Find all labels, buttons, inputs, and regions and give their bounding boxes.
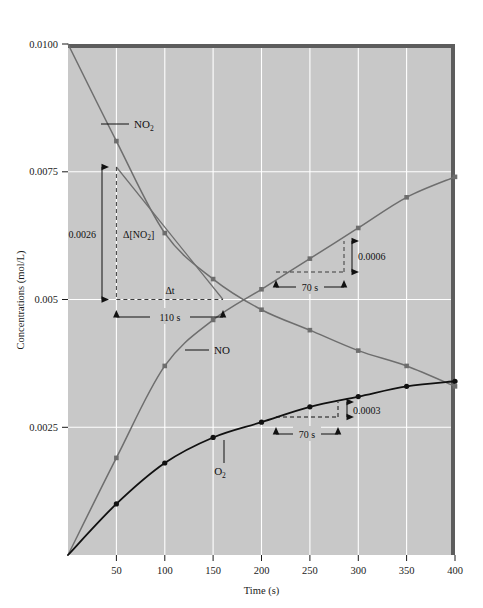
data-point-o2-100: [162, 460, 167, 465]
data-point-no-350: [404, 195, 409, 200]
data-point-no2-350: [404, 364, 409, 369]
no2-run-label: 110 s: [159, 312, 180, 323]
y-tick-label-00075: 0.0075: [29, 166, 58, 177]
x-tick-label-150: 150: [205, 565, 221, 576]
no-rise-label: 0.0006: [358, 251, 386, 262]
data-point-no-250: [308, 256, 313, 261]
no2-rise-label: 0.0026: [69, 229, 97, 240]
data-point-no2-400: [453, 384, 458, 389]
delta-t-label: Δt: [165, 285, 174, 296]
x-tick-label-250: 250: [302, 565, 318, 576]
data-point-no-50: [114, 456, 119, 461]
data-point-no2-50: [114, 139, 119, 144]
y-tick-label-00025: 0.0025: [29, 422, 58, 433]
data-point-no2-250: [308, 328, 313, 333]
data-point-no2-100: [162, 231, 167, 236]
chart-canvas: 0.0100 0.0075 0.005 0.0025 50 100 150 20…: [0, 0, 483, 608]
o2-run-label: 70 s: [299, 429, 316, 440]
series-label-no: NO: [214, 344, 230, 356]
data-point-o2-350: [404, 384, 409, 389]
data-point-o2-400: [452, 379, 457, 384]
data-point-o2-50: [114, 501, 119, 506]
kinetics-concentration-chart: 0.0100 0.0075 0.005 0.0025 50 100 150 20…: [0, 0, 483, 608]
data-point-no-200: [259, 287, 264, 292]
x-tick-label-350: 350: [399, 565, 415, 576]
data-point-no-400: [453, 175, 458, 180]
y-tick-label-0005: 0.005: [34, 294, 58, 305]
y-axis-title: Concentrations (mol/L): [15, 250, 27, 349]
plot-right-shadow: [451, 44, 455, 555]
x-tick-label-200: 200: [254, 565, 270, 576]
data-point-no2-300: [356, 348, 361, 353]
data-point-no-100: [162, 364, 167, 369]
x-tick-label-100: 100: [157, 565, 173, 576]
y-tick-label-0010: 0.0100: [29, 39, 58, 50]
x-axis-title: Time (s): [244, 585, 280, 597]
data-point-o2-200: [259, 420, 264, 425]
data-point-o2-150: [211, 435, 216, 440]
plot-top-shadow: [68, 44, 455, 48]
o2-rise-label: 0.0003: [353, 405, 381, 416]
no-run-label: 70 s: [302, 282, 319, 293]
data-point-no2-200: [259, 307, 264, 312]
x-tick-label-300: 300: [350, 565, 366, 576]
data-point-no-300: [356, 226, 361, 231]
x-tick-label-400: 400: [447, 565, 463, 576]
data-point-no2-150: [211, 277, 216, 282]
x-tick-label-50: 50: [111, 565, 122, 576]
data-point-o2-250: [307, 404, 312, 409]
data-point-no-150: [211, 318, 216, 323]
data-point-o2-300: [356, 394, 361, 399]
